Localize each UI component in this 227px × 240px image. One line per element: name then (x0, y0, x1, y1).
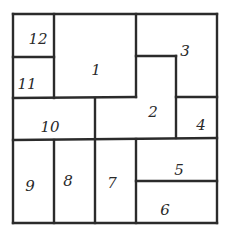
region-label-11: 11 (17, 77, 36, 92)
region-label-3: 3 (180, 44, 190, 59)
region-label-9: 9 (25, 179, 35, 194)
region-label-4: 4 (196, 118, 206, 133)
region-label-1: 1 (91, 63, 101, 78)
region-label-6: 6 (160, 203, 170, 218)
region-label-8: 8 (63, 174, 73, 189)
region-label-10: 10 (40, 120, 59, 135)
region-label-7: 7 (107, 176, 117, 191)
region-label-12: 12 (28, 32, 47, 47)
border-line (13, 97, 136, 98)
region-label-2: 2 (148, 105, 158, 120)
region-label-5: 5 (174, 163, 184, 178)
